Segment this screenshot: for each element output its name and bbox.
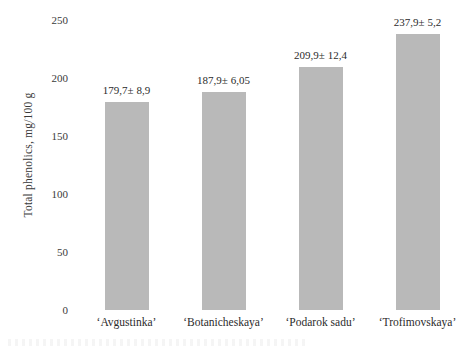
y-tick-50: 50 [36, 246, 68, 258]
y-axis-tick-labels: 250200150100500 [36, 0, 68, 348]
bar-value-label: 237,9± 5,2 [394, 16, 441, 28]
category-label: ‘Avgustinka’ [97, 316, 157, 328]
y-tick-150: 150 [36, 130, 68, 142]
bar-slot: 187,9± 6,05 [175, 20, 272, 310]
bar[interactable] [299, 67, 343, 310]
y-tick-250: 250 [36, 14, 68, 26]
category-label: ‘Trofimovskaya’ [379, 316, 457, 328]
y-tick-100: 100 [36, 188, 68, 200]
x-axis-category-labels: ‘Avgustinka’‘Botanicheskaya’‘Podarok sad… [78, 316, 466, 336]
category-label: ‘Botanicheskaya’ [183, 316, 263, 328]
bar-value-label: 187,9± 6,05 [197, 74, 250, 86]
bar-value-label: 209,9± 12,4 [294, 49, 347, 61]
bar-slot: 179,7± 8,9 [78, 20, 175, 310]
scan-artifact [8, 339, 308, 346]
bar-chart-figure: Total phenolics, mg/100 g 25020015010050… [0, 0, 474, 348]
y-tick-200: 200 [36, 72, 68, 84]
bar[interactable] [396, 34, 440, 310]
y-tick-0: 0 [36, 304, 68, 316]
bar-slot: 209,9± 12,4 [272, 20, 369, 310]
bar-slot: 237,9± 5,2 [369, 20, 466, 310]
bar-value-label: 179,7± 8,9 [103, 84, 150, 96]
bar[interactable] [105, 102, 149, 310]
category-label: ‘Podarok sadu’ [286, 316, 356, 328]
plot-area: 179,7± 8,9187,9± 6,05209,9± 12,4237,9± 5… [78, 20, 466, 310]
bar[interactable] [202, 92, 246, 310]
